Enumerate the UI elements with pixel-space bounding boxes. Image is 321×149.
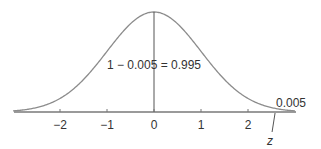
x-tick-label: −1 [100,118,114,132]
center-area-label: 1 − 0.005 = 0.995 [107,58,201,72]
x-tick-label: 1 [198,118,205,132]
z-label: z [266,134,273,148]
x-tick-label: 0 [151,118,158,132]
x-tick-label: −2 [53,118,67,132]
x-tick-label: 2 [245,118,252,132]
z-pointer-line [272,113,275,132]
normal-curve-diagram: −2−1012 1 − 0.005 = 0.995 0.005 z [0,0,321,149]
tail-area-label: 0.005 [276,96,306,110]
